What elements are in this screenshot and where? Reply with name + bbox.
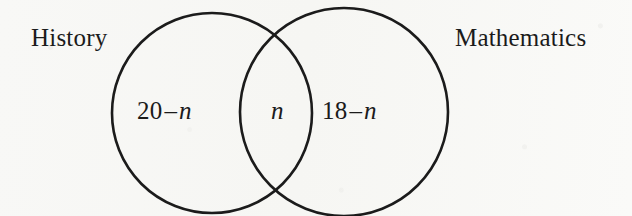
intersection-variable: n	[271, 97, 284, 124]
venn-diagram-figure: History Mathematics 20–n n 18–n	[0, 0, 632, 216]
history-only-operator: –	[162, 97, 179, 124]
mathematics-only-region-label: 18–n	[322, 98, 377, 123]
history-only-region-label: 20–n	[137, 98, 192, 123]
history-only-variable: n	[179, 97, 192, 124]
history-only-count: 20	[137, 97, 162, 124]
mathematics-only-variable: n	[364, 97, 377, 124]
intersection-region-label: n	[271, 98, 284, 123]
history-set-label: History	[31, 25, 107, 50]
mathematics-set-label: Mathematics	[455, 25, 586, 50]
mathematics-only-operator: –	[347, 97, 364, 124]
mathematics-only-count: 18	[322, 97, 347, 124]
